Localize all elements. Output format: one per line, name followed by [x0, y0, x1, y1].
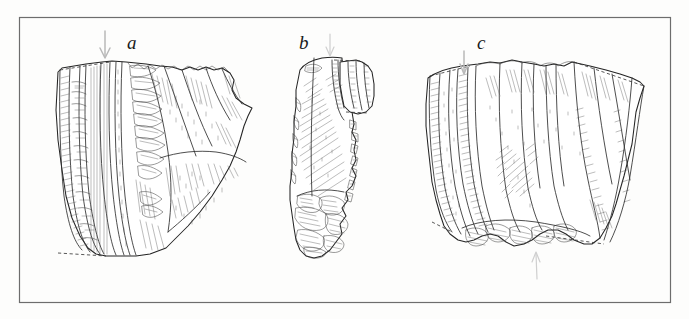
artifact-c — [426, 60, 644, 246]
figure-plate: a b c — [0, 0, 689, 319]
figure-label-a: a — [127, 33, 137, 52]
figure-label-c: c — [477, 33, 485, 52]
lithic-illustration-svg — [0, 0, 689, 319]
figure-label-b: b — [299, 33, 309, 52]
